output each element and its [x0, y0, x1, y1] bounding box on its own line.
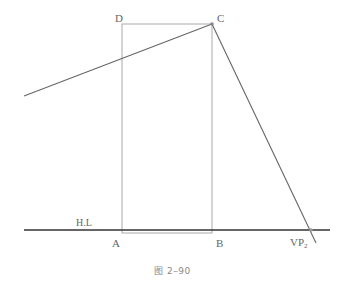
label-D: D	[115, 13, 123, 24]
label-VP2: VP2	[290, 237, 308, 250]
figure-caption: 图 2–90	[0, 264, 345, 277]
line-C-to-VP2	[212, 24, 316, 243]
label-VP2-base: VP	[290, 236, 304, 248]
point-VP2-marker	[309, 228, 313, 232]
label-B: B	[216, 238, 223, 249]
point-C-marker	[210, 22, 214, 26]
label-C: C	[217, 13, 224, 24]
label-A: A	[112, 238, 120, 249]
rectangle-ABCD	[122, 24, 212, 233]
label-horizon-line: H.L	[76, 218, 92, 228]
label-VP2-subscript: 2	[304, 242, 308, 250]
line-to-C	[24, 24, 212, 96]
